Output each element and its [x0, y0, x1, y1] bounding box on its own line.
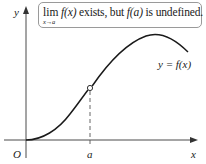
function-curve-lower	[26, 90, 88, 140]
lim-subscript: x→a	[43, 18, 55, 25]
y-axis-label: y	[14, 6, 19, 18]
hole-open-circle-icon	[87, 85, 92, 90]
callout-fx: f(x)	[61, 6, 76, 18]
x-axis-arrow-icon	[190, 137, 198, 143]
callout-fa: f(a)	[127, 6, 143, 18]
callout-message: f(x) exists, but f(a) is undefined.	[61, 6, 203, 18]
callout-undefined-text: is undefined.	[143, 6, 203, 18]
function-label: y = f(x)	[158, 58, 191, 70]
callout-exists-text: exists, but	[76, 6, 126, 18]
x-axis-label: x	[191, 148, 196, 160]
point-a-label: a	[87, 148, 93, 160]
lim-word: lim	[43, 6, 58, 18]
limit-callout-box: lim x→a f(x) exists, but f(a) is undefin…	[38, 2, 202, 28]
y-axis-arrow-icon	[23, 6, 29, 14]
origin-label: O	[13, 148, 21, 160]
